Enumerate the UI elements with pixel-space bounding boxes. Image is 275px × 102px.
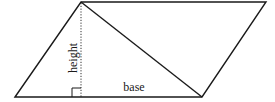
right-angle-marker (72, 88, 81, 97)
height-label: height (66, 42, 80, 73)
base-label: base (123, 80, 144, 94)
parallelogram-diagram: height base (0, 0, 275, 102)
